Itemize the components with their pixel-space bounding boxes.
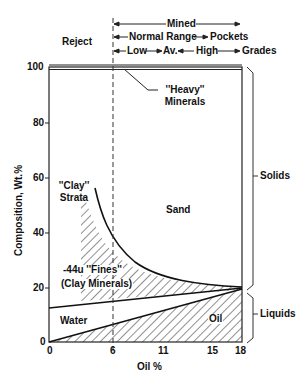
reject-label: Reject [62, 37, 92, 47]
solids-bracket [247, 67, 253, 290]
y-tick-100: 100 [27, 62, 44, 72]
mined-label: Mined [167, 19, 196, 29]
water-label: Water [60, 316, 87, 326]
grades-label: Grades [242, 46, 276, 56]
heavy-minerals-label: ''Heavy'' Minerals [160, 84, 210, 108]
fines-label-line1: -44u ''Fines'' [62, 265, 123, 275]
av-label: Av. [163, 46, 177, 56]
y-tick-40: 40 [33, 228, 44, 238]
low-label: Low [127, 46, 147, 56]
x-tick-0: 0 [47, 346, 53, 356]
sand-label: Sand [166, 205, 190, 215]
high-label: High [196, 46, 218, 56]
y-tick-60: 60 [33, 173, 44, 183]
liquids-label: Liquids [260, 309, 296, 319]
solids-label: Solids [260, 171, 290, 181]
x-tick-18: 18 [235, 346, 246, 356]
chart-canvas [0, 0, 307, 379]
fines-label-line2: (Clay Minerals) [60, 279, 133, 289]
y-axis-label: Composition, Wt.% [13, 141, 24, 281]
y-tick-20: 20 [33, 283, 44, 293]
x-axis-label: Oil % [137, 362, 162, 372]
pockets-label: Pockets [210, 32, 248, 42]
x-tick-11: 11 [158, 346, 169, 356]
y-tick-0: 0 [40, 337, 46, 347]
clay-strata-label: ''Clay'' Strata [54, 180, 94, 204]
x-tick-15: 15 [207, 346, 218, 356]
y-tick-80: 80 [33, 118, 44, 128]
x-tick-6: 6 [110, 346, 116, 356]
oil-label: Oil [208, 314, 223, 324]
normal-range-label: Normal Range [129, 32, 197, 42]
liquids-bracket [247, 293, 253, 343]
